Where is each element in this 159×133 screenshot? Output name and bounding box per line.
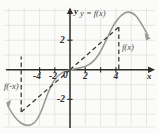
fx-label: f(x) bbox=[122, 43, 134, 52]
secant-right-line bbox=[70, 27, 119, 70]
graph-figure: y x 0 -4 -2 2 4 2 -2 y = f(x) f(x) f(-x) bbox=[0, 0, 159, 133]
x-tick-minus4: -4 bbox=[33, 72, 41, 82]
x-tick-2: 2 bbox=[83, 72, 88, 82]
x-axis-label: x bbox=[147, 72, 152, 81]
x-tick-4: 4 bbox=[114, 72, 119, 82]
y-axis-label: y bbox=[74, 7, 78, 16]
origin-label: 0 bbox=[63, 71, 68, 81]
function-curve bbox=[6, 12, 151, 125]
function-equation-label: y = f(x) bbox=[80, 9, 106, 18]
x-tick-minus2: -2 bbox=[49, 72, 57, 82]
y-tick-2: 2 bbox=[60, 36, 65, 46]
f-minus-x-label: f(-x) bbox=[4, 82, 19, 91]
coordinate-plot bbox=[0, 0, 159, 133]
y-tick-minus2: -2 bbox=[57, 95, 65, 105]
